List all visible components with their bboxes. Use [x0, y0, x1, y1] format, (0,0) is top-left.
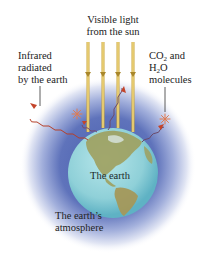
ray-arrowhead-icon	[115, 72, 121, 77]
molecule-starburst-icon	[160, 114, 170, 124]
molecule-starburst-icon	[72, 109, 82, 119]
infrared-arrowhead-icon	[30, 103, 37, 109]
greenhouse-diagram: Visible light from the sun Infrared radi…	[0, 0, 203, 256]
ray-arrowhead-icon	[100, 72, 106, 77]
label-molecules: CO2 and H2O molecules	[149, 50, 192, 86]
label-co2: CO2 and	[149, 50, 192, 62]
ray-arrowhead-icon	[85, 72, 91, 77]
label-visible-light: Visible light from the sun	[82, 14, 144, 38]
label-infrared: Infrared radiated by the earth	[18, 50, 68, 86]
label-earth: The earth	[90, 170, 130, 182]
label-atmosphere: The earth’s atmosphere	[55, 210, 103, 234]
ray-arrowhead-icon	[130, 72, 136, 77]
label-h2o: H2O	[149, 62, 192, 74]
